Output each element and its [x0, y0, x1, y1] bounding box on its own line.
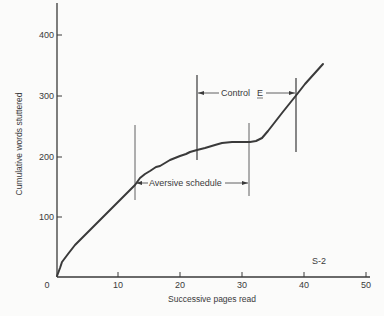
cumulative-curve	[57, 64, 323, 276]
x-tick-40: 40	[299, 280, 309, 290]
control-subscript-label: E	[257, 88, 263, 98]
y-tick-300: 300	[39, 91, 54, 101]
x-tick-50: 50	[361, 280, 371, 290]
arrowhead-right-icon	[289, 91, 295, 95]
subject-label: S-2	[312, 256, 326, 266]
x-ticks	[118, 272, 366, 277]
chart-canvas: 100 200 300 400 0 10 20 30 40 50 Success…	[0, 0, 384, 316]
arrowhead-right-icon	[242, 181, 248, 185]
x-tick-20: 20	[175, 280, 185, 290]
x-tick-30: 30	[237, 280, 247, 290]
y-ticks	[57, 35, 62, 217]
y-axis-title: Cumulative words stuttered	[14, 92, 24, 195]
x-tick-10: 10	[113, 280, 123, 290]
x-axis-title: Successive pages read	[168, 294, 256, 304]
control-label: Control	[221, 88, 250, 98]
aversive-schedule-label: Aversive schedule	[149, 178, 222, 188]
arrowhead-left-icon	[198, 91, 204, 95]
origin-label: 0	[44, 280, 49, 290]
y-tick-100: 100	[39, 212, 54, 222]
y-tick-200: 200	[39, 152, 54, 162]
y-tick-400: 400	[39, 30, 54, 40]
